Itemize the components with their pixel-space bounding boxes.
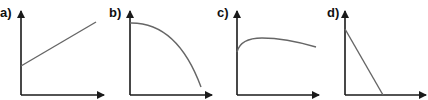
graph-panel-c: c)	[214, 0, 321, 100]
curve-a	[21, 22, 96, 66]
graph-a	[0, 0, 107, 100]
graph-panel-b: b)	[107, 0, 214, 100]
graph-c	[214, 0, 321, 100]
graph-panel-d: d)	[321, 0, 428, 100]
graph-d	[321, 0, 428, 100]
curve-b	[130, 23, 201, 87]
curve-c	[237, 38, 316, 52]
graph-b	[107, 0, 214, 100]
curve-d	[345, 29, 383, 95]
graph-panel-a: a)	[0, 0, 107, 100]
